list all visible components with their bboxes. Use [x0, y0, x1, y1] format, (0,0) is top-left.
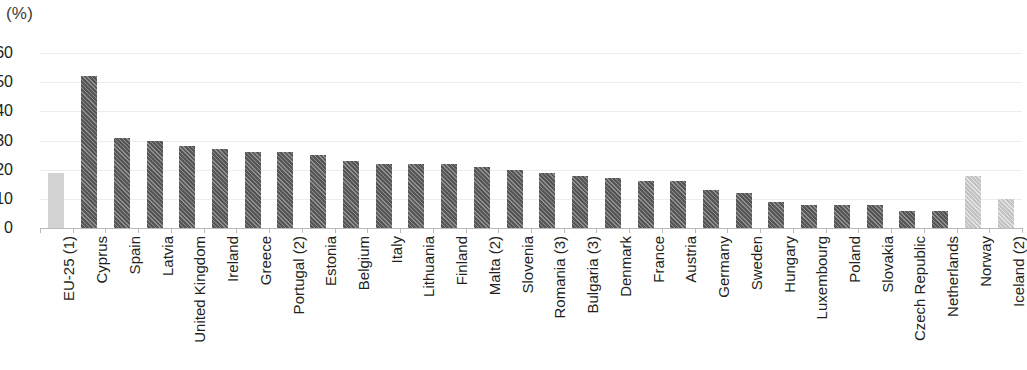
bar[interactable]: [179, 146, 195, 228]
x-axis-tick: [695, 228, 696, 233]
x-axis-category-label: Portugal (2): [291, 236, 306, 314]
bar[interactable]: [114, 138, 130, 228]
bar[interactable]: [507, 170, 523, 228]
x-axis-tick: [1022, 228, 1023, 233]
bar[interactable]: [147, 141, 163, 229]
x-axis-category-label-text: Austria: [683, 236, 698, 283]
bar-slot: [466, 53, 499, 228]
x-axis-category-label: Finland: [454, 236, 469, 285]
bar[interactable]: [638, 181, 654, 228]
bar[interactable]: [441, 164, 457, 228]
x-axis-category-label-text: Portugal (2): [291, 236, 306, 314]
bar[interactable]: [245, 152, 261, 228]
bar[interactable]: [310, 155, 326, 228]
x-axis-tick: [564, 228, 565, 233]
bar[interactable]: [408, 164, 424, 228]
x-axis-category-label-text: Czech Republic: [912, 236, 927, 341]
bar-slot: [138, 53, 171, 228]
x-axis-category-label-text: France: [651, 236, 666, 283]
bar[interactable]: [965, 176, 981, 229]
x-axis-tick: [40, 228, 41, 233]
bar-slot: [269, 53, 302, 228]
x-axis-category-label: Slovenia: [520, 236, 535, 294]
bar[interactable]: [703, 190, 719, 228]
x-axis-category-label-text: Hungary: [782, 236, 797, 293]
x-axis-tick: [335, 228, 336, 233]
bar-slot: [40, 53, 73, 228]
x-axis-category-label: Austria: [683, 236, 698, 283]
y-axis-tick-label: 30: [0, 133, 13, 149]
y-axis-unit-label: (%): [6, 4, 33, 24]
y-axis-tick-label: 10: [0, 191, 13, 207]
x-axis-category-label-text: Spain: [127, 236, 142, 274]
x-axis-category-label-text: Iceland (2): [1011, 236, 1026, 307]
x-axis-category-label: Germany: [716, 236, 731, 298]
x-axis-tick: [727, 228, 728, 233]
bar-series: [40, 53, 1022, 228]
x-axis-tick: [400, 228, 401, 233]
bar[interactable]: [212, 149, 228, 228]
bar[interactable]: [899, 211, 915, 229]
bar[interactable]: [670, 181, 686, 228]
y-axis-tick-label: 60: [0, 45, 13, 61]
x-axis-tick: [433, 228, 434, 233]
bar[interactable]: [539, 173, 555, 228]
bar-slot: [302, 53, 335, 228]
x-axis-tick: [989, 228, 990, 233]
x-axis-category-label: Hungary: [782, 236, 797, 293]
bar[interactable]: [932, 211, 948, 229]
bar-slot: [662, 53, 695, 228]
bar[interactable]: [834, 205, 850, 228]
bar-slot: [105, 53, 138, 228]
bar-slot: [564, 53, 597, 228]
bar[interactable]: [343, 161, 359, 228]
x-axis-category-label: Romania (3): [552, 236, 567, 319]
bar[interactable]: [605, 178, 621, 228]
bar-slot: [335, 53, 368, 228]
x-axis-tick: [466, 228, 467, 233]
x-axis-category-label-text: Slovenia: [520, 236, 535, 294]
bar[interactable]: [801, 205, 817, 228]
x-axis-tick: [73, 228, 74, 233]
x-axis-category-label-text: Germany: [716, 236, 731, 298]
bar[interactable]: [768, 202, 784, 228]
x-axis-tick: [891, 228, 892, 233]
x-axis-tick: [596, 228, 597, 233]
x-axis-category-label: Poland: [847, 236, 862, 283]
x-axis-category-label: Malta (2): [487, 236, 502, 295]
bar[interactable]: [277, 152, 293, 228]
x-axis-category-label-text: Latvia: [160, 236, 175, 276]
x-axis-category-label: Czech Republic: [912, 236, 927, 341]
x-axis-category-label-text: Poland: [847, 236, 862, 283]
x-axis-category-label-text: Bulgaria (3): [585, 236, 600, 314]
x-axis-tick: [793, 228, 794, 233]
x-axis-category-label-text: Norway: [978, 236, 993, 287]
bar[interactable]: [867, 205, 883, 228]
bar-slot: [629, 53, 662, 228]
plot-area: 6050403020100: [40, 53, 1022, 228]
bar[interactable]: [572, 176, 588, 229]
x-axis-category-label: Norway: [978, 236, 993, 287]
bar[interactable]: [48, 173, 64, 228]
x-axis-category-label-text: Belgium: [356, 236, 371, 290]
x-axis-category-label-text: Lithuania: [421, 236, 436, 297]
x-axis-tick: [662, 228, 663, 233]
x-axis-category-label-text: Italy: [389, 236, 404, 264]
x-axis-tick: [367, 228, 368, 233]
x-axis-category-label: EU-25 (1): [61, 236, 76, 301]
bar[interactable]: [81, 76, 97, 228]
x-axis-category-label-text: Cyprus: [94, 236, 109, 284]
x-axis-tick: [629, 228, 630, 233]
bar-slot: [596, 53, 629, 228]
x-axis-category-label: Estonia: [323, 236, 338, 286]
x-axis-category-label: Italy: [389, 236, 404, 264]
bar[interactable]: [376, 164, 392, 228]
x-axis-category-label-text: Greece: [258, 236, 273, 285]
bar[interactable]: [998, 199, 1014, 228]
bar-slot: [236, 53, 269, 228]
bar[interactable]: [474, 167, 490, 228]
bar-slot: [531, 53, 564, 228]
x-axis-category-label: United Kingdom: [192, 236, 207, 343]
bar[interactable]: [736, 193, 752, 228]
x-axis-tick: [957, 228, 958, 233]
